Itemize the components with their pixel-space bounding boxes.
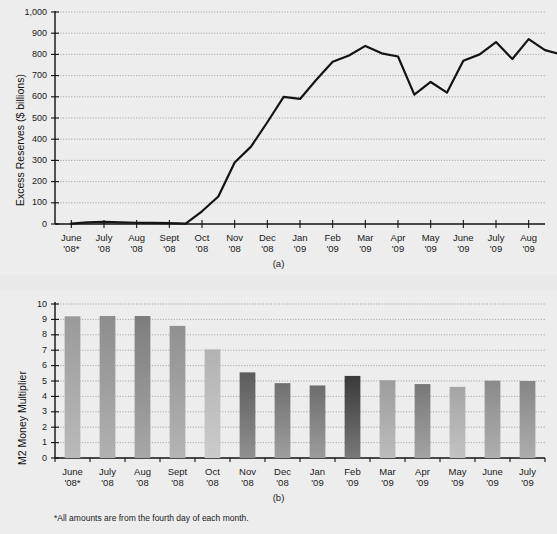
panel-b-x-tick-label: July'09 [504,466,551,488]
x-label-month: Dec [259,232,276,243]
x-label-year: '09 [381,477,393,488]
panel-a-y-tick-label: 400 [0,135,47,144]
panel-b-y-tick-label: 2 [0,423,47,432]
x-label-month: Nov [226,232,243,243]
x-label-month: Oct [195,232,210,243]
x-label-year: '09 [451,477,463,488]
panel-a-excess-reserves: Excess Reserves ($ billions) 01002003004… [0,0,557,275]
x-label-year: '08 [130,243,142,254]
x-label-year: '08* [64,477,80,488]
x-label-month: Aug [520,232,537,243]
x-label-month: Sept [168,466,188,477]
panel-a-x-tick-label: Aug'09 [506,232,551,254]
panel-a-y-tick-label: 300 [0,156,47,165]
x-label-month: June [453,232,474,243]
x-label-year: '08 [206,477,218,488]
x-label-month: Sept [160,232,180,243]
panel-b-y-tick-label: 7 [0,346,47,355]
panel-b-y-tick-label: 3 [0,407,47,416]
x-label-year: '09 [486,477,498,488]
x-label-year: '09 [311,477,323,488]
x-label-month: Jan [292,232,307,243]
panel-a-y-tick-label: 0 [0,220,47,229]
figure-container: Excess Reserves ($ billions) 01002003004… [0,0,557,534]
x-label-year: '08 [171,477,183,488]
figure-footnote: *All amounts are from the fourth day of … [54,513,249,523]
x-label-month: Mar [357,232,373,243]
x-label-month: May [449,466,467,477]
x-label-year: '08 [241,477,253,488]
x-label-year: '08 [101,477,113,488]
x-label-month: July [488,232,505,243]
panel-a-y-tick-label: 800 [0,50,47,59]
x-label-month: Aug [134,466,151,477]
panel-b-caption: (b) [0,492,557,503]
x-label-month: Feb [324,232,340,243]
x-label-month: Aug [128,232,145,243]
panel-b-y-tick-label: 0 [0,454,47,463]
x-label-month: Apr [391,232,406,243]
panel-a-caption: (a) [0,258,557,269]
x-label-month: June [61,232,82,243]
x-label-year: '09 [424,243,436,254]
x-label-year: '09 [490,243,502,254]
x-label-month: July [99,466,116,477]
panel-a-y-tick-label: 700 [0,71,47,80]
x-label-month: Nov [239,466,256,477]
x-label-year: '08 [261,243,273,254]
x-label-month: June [482,466,503,477]
panel-b-y-tick-label: 9 [0,315,47,324]
panel-a-y-tick-label: 1,000 [0,8,47,17]
x-label-year: '09 [457,243,469,254]
x-label-month: June [62,466,83,477]
x-label-year: '09 [522,243,534,254]
x-label-year: '09 [521,477,533,488]
x-label-month: Jan [310,466,325,477]
x-label-year: '08 [98,243,110,254]
panel-b-y-tick-label: 4 [0,392,47,401]
x-label-month: Oct [205,466,220,477]
panel-b-y-tick-label: 8 [0,330,47,339]
x-label-month: Mar [379,466,395,477]
x-label-year: '08* [63,243,79,254]
x-label-year: '09 [359,243,371,254]
x-label-month: Feb [344,466,360,477]
panel-b-y-tick-label: 5 [0,377,47,386]
panel-a-y-tick-label: 500 [0,114,47,123]
x-label-year: '09 [416,477,428,488]
panel-a-y-tick-label: 600 [0,92,47,101]
x-label-year: '09 [392,243,404,254]
panel-b-y-tick-label: 1 [0,438,47,447]
x-label-year: '09 [326,243,338,254]
x-label-year: '08 [276,477,288,488]
panel-a-y-tick-label: 900 [0,29,47,38]
x-label-year: '09 [294,243,306,254]
x-label-year: '09 [346,477,358,488]
panel-b-y-tick-label: 6 [0,361,47,370]
x-label-month: May [422,232,440,243]
panel-b-money-multiplier: M2 Money Multiplier 012345678910 June'08… [0,290,557,534]
x-label-year: '08 [228,243,240,254]
x-label-year: '08 [163,243,175,254]
x-label-year: '08 [136,477,148,488]
x-label-year: '08 [196,243,208,254]
panel-a-y-tick-label: 100 [0,198,47,207]
x-label-month: July [519,466,536,477]
x-label-month: Dec [274,466,291,477]
x-label-month: July [96,232,113,243]
panel-a-y-tick-label: 200 [0,177,47,186]
x-label-month: Apr [415,466,430,477]
panel-b-y-tick-label: 10 [0,300,47,309]
